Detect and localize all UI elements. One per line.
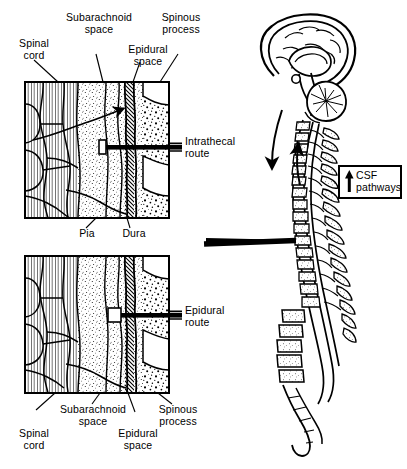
label-epidural-space-top: Epidural space	[118, 44, 178, 67]
label-subarachnoid-space-bottom: Subarachnoid space	[52, 404, 134, 427]
label-dura: Dura	[114, 228, 154, 240]
lower-panel-artwork	[25, 256, 182, 393]
pointer-arrow	[204, 238, 296, 247]
label-pia: Pia	[70, 228, 104, 240]
illustration-canvas	[0, 0, 407, 469]
label-intrathecal-route: Intrathecal route	[185, 136, 245, 159]
label-epidural-route: Epidural route	[185, 305, 245, 328]
label-spinal-cord-top: Spinal cord	[8, 38, 60, 61]
brain-spine-artwork	[261, 14, 356, 456]
label-subarachnoid-space-top: Subarachnoid space	[58, 12, 140, 35]
label-spinous-process-bottom: Spinous process	[150, 404, 206, 427]
label-spinous-process-top: Spinous process	[152, 12, 210, 35]
upper-panel-artwork	[25, 82, 182, 225]
figure-root: Spinal cord Subarachnoid space Epidural …	[0, 0, 407, 469]
label-spinal-cord-bottom: Spinal cord	[8, 428, 60, 451]
csf-descending-arrow	[272, 110, 282, 164]
label-epidural-space-bottom: Epidural space	[108, 428, 168, 451]
legend-label: CSF pathways	[356, 170, 402, 193]
